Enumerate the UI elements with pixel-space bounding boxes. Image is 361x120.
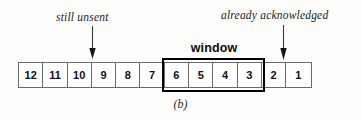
down-arrow-icon-still-unsent bbox=[87, 26, 98, 59]
sequence-cell: 6 bbox=[165, 63, 189, 87]
sliding-window-figure: still unsent already acknowledged window… bbox=[0, 0, 361, 120]
sequence-cell: 7 bbox=[140, 63, 164, 87]
sequence-cell: 11 bbox=[43, 63, 67, 87]
sequence-cell: 1 bbox=[286, 63, 310, 87]
sequence-number-strip: 12 11 10 9 8 7 6 5 4 3 2 1 bbox=[18, 62, 312, 88]
sequence-cell: 4 bbox=[213, 63, 237, 87]
sequence-cell: 10 bbox=[68, 63, 92, 87]
window-label: window bbox=[163, 41, 265, 55]
sequence-cell: 5 bbox=[189, 63, 213, 87]
sequence-cell: 8 bbox=[116, 63, 140, 87]
sequence-cell: 3 bbox=[238, 63, 262, 87]
annotation-label-still-unsent: still unsent bbox=[56, 11, 109, 23]
sequence-cell: 9 bbox=[92, 63, 116, 87]
sequence-cell: 12 bbox=[19, 63, 43, 87]
annotation-label-already-acknowledged: already acknowledged bbox=[221, 9, 328, 21]
figure-caption: (b) bbox=[0, 97, 361, 112]
sequence-cell: 2 bbox=[262, 63, 286, 87]
down-arrow-icon-already-acknowledged bbox=[278, 25, 289, 60]
